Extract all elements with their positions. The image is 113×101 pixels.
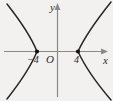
hyperbola-figure: y x O −4 4 bbox=[0, 0, 113, 101]
y-axis-arrowhead bbox=[55, 3, 61, 10]
vertex-point-right bbox=[76, 49, 80, 53]
graph-canvas bbox=[0, 0, 113, 101]
y-axis-label: y bbox=[50, 2, 55, 13]
vertex-label-four: 4 bbox=[74, 55, 79, 65]
x-axis-label: x bbox=[103, 55, 108, 66]
vertex-point-left bbox=[35, 49, 39, 53]
origin-label: O bbox=[46, 54, 54, 65]
vertex-label-negative-four: −4 bbox=[27, 55, 39, 65]
